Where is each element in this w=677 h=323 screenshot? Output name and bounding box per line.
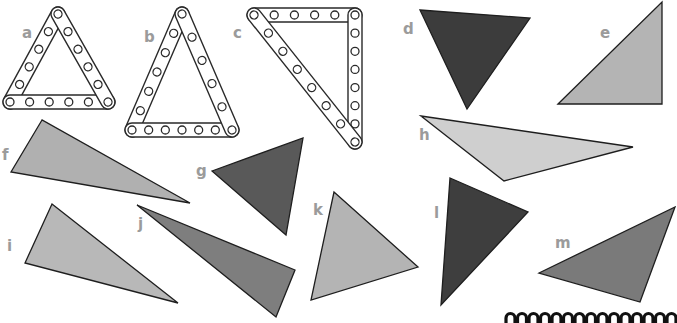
hole	[195, 126, 203, 134]
hole	[211, 126, 219, 134]
hole	[84, 98, 92, 106]
coil-loop	[610, 314, 619, 323]
hole	[351, 47, 359, 55]
hole	[26, 98, 34, 106]
coil-loop	[667, 314, 676, 323]
label-k: k	[313, 201, 324, 219]
coil-loop	[564, 314, 573, 323]
label-d: d	[403, 20, 414, 38]
coil-loop	[529, 314, 538, 323]
label-b: b	[144, 28, 155, 46]
triangle-d	[420, 10, 530, 109]
hole	[311, 11, 319, 19]
label-j: j	[137, 215, 143, 233]
coil-loop	[621, 314, 630, 323]
triangle-l	[441, 178, 528, 305]
coil-loop	[506, 314, 515, 323]
label-a: a	[22, 24, 32, 42]
hole	[270, 11, 278, 19]
triangle-g	[212, 138, 303, 235]
hole	[128, 126, 136, 134]
label-l: l	[434, 204, 439, 222]
hole	[65, 98, 73, 106]
coil-loop	[518, 314, 527, 323]
coil-loop	[633, 314, 642, 323]
rod-strip	[244, 5, 365, 152]
label-i: i	[7, 237, 12, 255]
hole	[290, 11, 298, 19]
hole	[351, 65, 359, 73]
label-g: g	[196, 162, 207, 180]
coil-loop	[656, 314, 665, 323]
label-h: h	[419, 126, 430, 144]
coil-loop	[587, 314, 596, 323]
hole	[45, 98, 53, 106]
triangle-m	[539, 207, 675, 302]
label-c: c	[233, 24, 242, 42]
hole	[331, 11, 339, 19]
triangle-h	[421, 116, 633, 181]
coil-loop	[541, 314, 550, 323]
triangle-k	[311, 192, 418, 300]
hole	[351, 29, 359, 37]
hole	[351, 11, 359, 19]
triangle-canvas: abcdefghijklm	[0, 0, 677, 323]
hole	[145, 126, 153, 134]
coil-binding	[506, 314, 676, 323]
rod-strip	[173, 5, 241, 139]
coil-loop	[575, 314, 584, 323]
rod-triangle-b	[123, 5, 241, 139]
hole	[178, 126, 186, 134]
label-m: m	[555, 234, 571, 252]
label-e: e	[600, 24, 610, 42]
coil-loop	[552, 314, 561, 323]
hole	[161, 126, 169, 134]
hole	[6, 98, 14, 106]
coil-loop	[598, 314, 607, 323]
hole	[351, 84, 359, 92]
triangle-e	[558, 2, 662, 104]
rod-triangle-c	[244, 5, 365, 152]
label-f: f	[2, 146, 9, 164]
coil-loop	[644, 314, 653, 323]
rod-triangle-a	[1, 4, 118, 111]
hole	[351, 102, 359, 110]
triangle-figure: abcdefghijklm	[0, 0, 677, 323]
